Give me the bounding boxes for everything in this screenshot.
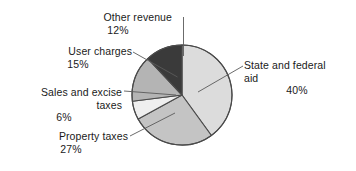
pie-label-state-and-federal-aid-name: State and federal <box>244 59 350 72</box>
pie-label-property-taxes-value: 27% <box>14 143 128 156</box>
pie-label-other-revenue: Other revenue 12% <box>64 11 172 36</box>
pie-label-sales-and-excise-taxes-value: 6% <box>6 111 122 124</box>
pie-label-state-and-federal-aid-value: 40% <box>244 84 350 97</box>
pie-label-other-revenue-name: Other revenue <box>64 11 172 24</box>
pie-label-other-revenue-value: 12% <box>64 24 172 37</box>
pie-label-sales-and-excise-taxes-name: Sales and excise <box>6 86 122 99</box>
pie-label-state-and-federal-aid: State and federal aid 40% <box>244 59 350 97</box>
pie-label-user-charges-name: User charges <box>24 45 132 58</box>
pie-label-property-taxes-name: Property taxes <box>14 130 128 143</box>
pie-label-user-charges: User charges 15% <box>24 45 132 70</box>
pie-chart-figure: Other revenue 12% User charges 15% Sales… <box>0 0 356 171</box>
pie-label-property-taxes: Property taxes 27% <box>14 130 128 155</box>
pie-label-sales-and-excise-taxes: Sales and excise taxes 6% <box>6 86 122 124</box>
pie-label-user-charges-value: 15% <box>24 58 132 71</box>
pie-label-sales-and-excise-taxes-name2: taxes <box>6 99 122 112</box>
pie-label-state-and-federal-aid-name2: aid <box>244 72 350 85</box>
